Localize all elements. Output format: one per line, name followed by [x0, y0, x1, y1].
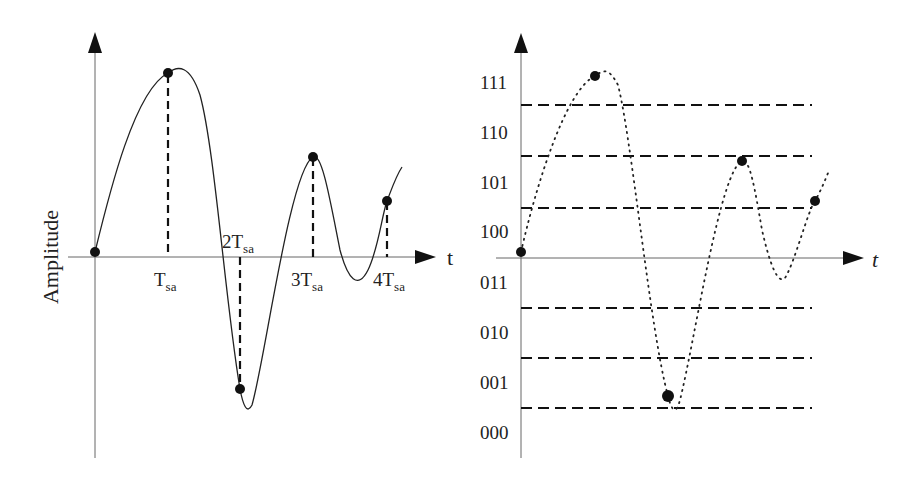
analog-signal-curve: [95, 68, 402, 409]
level-label-001: 001: [480, 372, 509, 393]
right-panel: 111 110 101 100 011 010 001 000 t: [480, 33, 879, 458]
level-label-111: 111: [480, 72, 507, 93]
sampling-quantization-diagram: Amplitude t Tsa 2Tsa 3Tsa 4Tsa: [0, 0, 919, 481]
right-y-axis-arrow-icon: [514, 33, 528, 53]
right-x-axis-arrow-icon: [843, 251, 864, 265]
left-x-axis-label: t: [447, 245, 453, 270]
level-label-000: 000: [480, 422, 509, 443]
right-x-axis-label: t: [872, 247, 879, 272]
tick-label-3: 3Tsa: [291, 269, 323, 294]
left-y-axis-arrow-icon: [88, 32, 102, 53]
tick-label-1: Tsa: [154, 269, 177, 294]
level-label-100: 100: [480, 221, 509, 242]
left-x-axis-arrow-icon: [415, 250, 436, 264]
y-axis-label: Amplitude: [38, 210, 63, 304]
level-label-101: 101: [480, 172, 509, 193]
level-label-110: 110: [480, 122, 508, 143]
sample-lines: [168, 75, 387, 388]
tick-label-2: 2Tsa: [222, 231, 254, 256]
level-label-011: 011: [480, 272, 508, 293]
level-label-010: 010: [480, 322, 509, 343]
tick-label-4: 4Tsa: [373, 269, 405, 294]
left-panel: Amplitude t Tsa 2Tsa 3Tsa 4Tsa: [38, 32, 453, 458]
